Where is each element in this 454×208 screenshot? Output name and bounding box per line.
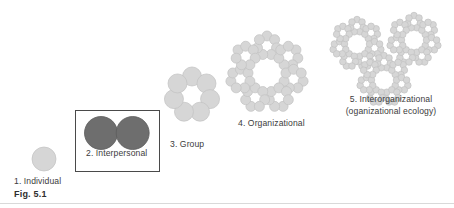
level-label-interorganizational: 5. Interorganizational (oganizational ec… (330, 94, 452, 117)
unit-circle-interorganizational (333, 51, 340, 58)
unit-circle-group (168, 74, 187, 93)
level-label-interpersonal: 2. Interpersonal (86, 148, 147, 158)
unit-circle-organizational (254, 101, 264, 111)
unit-circle-interorganizational (433, 37, 440, 44)
unit-circle-interorganizational (368, 23, 375, 30)
unit-circle-interorganizational (425, 19, 432, 26)
unit-circle-interorganizational (333, 31, 340, 38)
unit-circle-organizational (231, 53, 241, 63)
unit-circle-interorganizational (349, 63, 356, 70)
unit-circle-interorganizational (376, 55, 383, 62)
interpersonal-boundary-box (75, 110, 160, 172)
unit-circle-organizational (254, 35, 264, 45)
unit-circle-interorganizational (390, 27, 397, 34)
unit-circle-organizational (283, 41, 293, 51)
unit-circle-interorganizational (349, 19, 356, 26)
unit-circle-organizational (296, 68, 306, 78)
figure-canvas: 1. Individual 2. Interpersonal 3. Group … (0, 0, 454, 208)
level-label-individual: 1. Individual (14, 176, 61, 186)
level-label-interorganizational-sub: (oganizational ecology) (346, 106, 437, 116)
bottom-divider (0, 203, 454, 204)
level-label-organizational: 4. Organizational (238, 118, 305, 128)
unit-circle-interorganizational (390, 47, 397, 54)
unit-circle-interorganizational (425, 54, 432, 61)
unit-circle-interorganizational (376, 41, 383, 48)
unit-circle-interorganizational (360, 87, 367, 94)
unit-circle-interorganizational (403, 77, 410, 84)
unit-circle-individual (32, 147, 56, 171)
level-label-group: 3. Group (170, 139, 204, 149)
unit-circle-interorganizational (395, 59, 402, 66)
figure-number: Fig. 5.1 (14, 189, 47, 199)
unit-circle-organizational (283, 95, 293, 105)
unit-circle-interorganizational (360, 67, 367, 74)
unit-circle-interorganizational (406, 15, 413, 22)
unit-circle-organizational (231, 83, 241, 93)
level-label-interorganizational-main: 5. Interorganizational (350, 94, 432, 104)
